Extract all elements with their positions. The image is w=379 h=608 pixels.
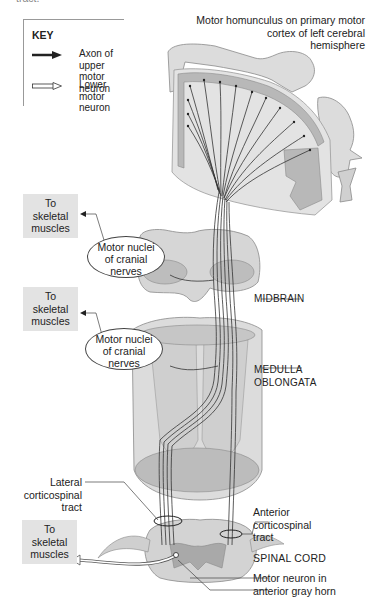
muscle-box-line: skeletal — [23, 210, 78, 223]
muscle-box-line: To — [23, 290, 78, 303]
motor-neuron-body — [174, 553, 179, 558]
anterior-corticospinal-tract-label: Anterior corticospinal tract — [253, 506, 311, 544]
motor-nuclei-bubble-midbrain: Motor nuclei of cranial nerves — [87, 236, 165, 278]
spinal-cord-label: SPINAL CORD — [253, 552, 326, 565]
homunculus-label-line: cortex of left cerebral — [196, 27, 365, 40]
anterior-tract-line: corticospinal — [253, 519, 311, 532]
key-item-lower-motor-neuron: Lower motor neuron — [79, 79, 124, 114]
skeletal-muscles-box-middle: To skeletal muscles — [23, 287, 78, 331]
homunculus-label-line: hemisphere — [196, 39, 365, 52]
bubble-line: of cranial — [86, 345, 162, 357]
muscle-box-line: To — [22, 523, 77, 536]
lateral-tract-line: tract — [8, 501, 82, 514]
lateral-tract-line: Lateral — [8, 476, 82, 489]
bubble-line: of cranial — [88, 253, 164, 265]
lateral-corticospinal-tract-label: Lateral corticospinal tract — [8, 476, 82, 514]
medulla-oblongata-label: MEDULLA OBLONGATA — [254, 364, 317, 389]
key-title: KEY — [32, 29, 54, 41]
skeletal-muscles-box-lower: To skeletal muscles — [22, 520, 77, 564]
homunculus-larynx — [338, 168, 356, 202]
arrowhead-icon — [80, 211, 86, 217]
medulla-lower-section — [135, 448, 259, 492]
homunculus-label: Motor homunculus on primary motor cortex… — [196, 14, 365, 52]
midbrain-label: MIDBRAIN — [254, 293, 305, 306]
muscle-box-line: To — [23, 197, 78, 210]
lateral-tract-line: corticospinal — [8, 489, 82, 502]
solid-arrow-icon — [32, 51, 62, 59]
anterior-tract-line: Anterior — [253, 506, 311, 519]
motor-neuron-line: Motor neuron in — [253, 572, 336, 585]
muscle-box-line: muscles — [22, 548, 77, 561]
bubble-line: nerves — [88, 265, 164, 277]
bubble-line: nerves — [86, 357, 162, 369]
arrowhead-icon — [80, 310, 86, 316]
motor-nuclei-bubble-medulla: Motor nuclei of cranial nerves — [85, 328, 163, 370]
medulla-label-line: OBLONGATA — [254, 377, 317, 390]
muscle-box-line: muscles — [23, 315, 78, 328]
spinal-gray-matter — [170, 543, 226, 570]
hollow-arrow-icon — [32, 82, 62, 90]
homunculus-label-line: Motor homunculus on primary motor — [196, 14, 365, 27]
legend-key: KEY Axon of upper motor neuron Lower mot… — [23, 19, 124, 106]
muscle-box-line: muscles — [23, 222, 78, 235]
muscle-box-line: skeletal — [23, 303, 78, 316]
skeletal-muscles-box-upper: To skeletal muscles — [23, 194, 78, 238]
motor-neuron-line: anterior gray horn — [253, 585, 336, 598]
motor-neuron-label: Motor neuron in anterior gray horn — [253, 572, 336, 597]
muscle-box-line: skeletal — [22, 536, 77, 549]
anterior-tract-line: tract — [253, 531, 311, 544]
bubble-line: Motor nuclei — [88, 241, 164, 253]
medulla-label-line: MEDULLA — [254, 364, 317, 377]
top-text-fragment: tract. — [16, 0, 39, 5]
spinal-nerve-root-left — [98, 536, 150, 558]
bubble-line: Motor nuclei — [86, 333, 162, 345]
